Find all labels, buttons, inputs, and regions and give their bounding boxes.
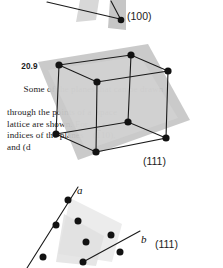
axis-label-b: b xyxy=(141,233,147,245)
cube-top-face xyxy=(59,55,168,82)
cube-vertical-edge-left xyxy=(56,65,59,134)
lattice-point xyxy=(127,51,134,58)
cube-vertical-edge-back xyxy=(128,55,131,122)
lattice-point xyxy=(52,130,59,137)
lattice-point xyxy=(53,222,60,229)
lattice-point xyxy=(162,134,169,141)
lattice-point xyxy=(124,118,131,125)
lattice-point xyxy=(83,239,90,246)
lattice-point xyxy=(108,232,115,239)
lattice-point xyxy=(118,17,125,24)
lattice-point xyxy=(93,78,100,85)
cube-bottom-face xyxy=(56,122,166,152)
figure-canvas: 20.9 20.9 Some of the planes that can be… xyxy=(0,0,223,268)
lattice-point xyxy=(164,67,171,74)
caption-plane-111-cube: (111) xyxy=(143,155,166,167)
lattice-point xyxy=(92,148,99,155)
lattice-point xyxy=(75,218,82,225)
caption-plane-111-lattice: (111) xyxy=(155,238,178,250)
lattice-point xyxy=(117,249,124,256)
lattice-point xyxy=(65,197,72,204)
caption-plane-100: (100) xyxy=(127,10,152,22)
lattice-point xyxy=(55,61,62,68)
lattice-point xyxy=(80,259,87,266)
cube-vertical-edge-front xyxy=(96,82,97,152)
plane-100-leader-line xyxy=(47,2,120,19)
axis-label-a: a xyxy=(77,184,83,196)
cube-vertical-edge-right xyxy=(166,71,168,138)
lattice-point xyxy=(40,254,47,261)
lattice-line-layer xyxy=(0,0,223,268)
